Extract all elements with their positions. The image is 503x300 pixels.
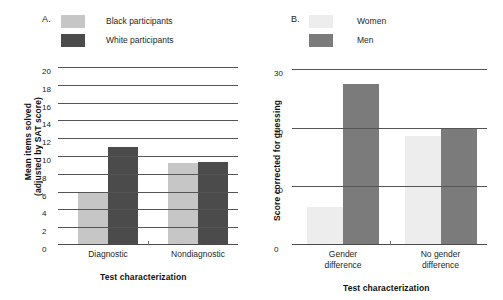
chart-panel-a: A. Black participants White participants…: [0, 0, 255, 300]
y-tick-label: 0: [274, 246, 278, 254]
bar: [168, 163, 198, 245]
bar: [343, 84, 379, 245]
y-tick-label: 20: [42, 68, 51, 76]
x-category-label: Genderdifference: [324, 249, 361, 271]
gridline: [58, 138, 238, 139]
legend-item: White participants: [61, 32, 174, 48]
y-tick-label: 12: [42, 139, 51, 147]
y-tick-label: 2: [42, 228, 46, 236]
y-tick-label: 14: [42, 121, 51, 129]
panel-b-legend: Women Men: [309, 13, 386, 51]
y-tick-label: 8: [42, 175, 46, 183]
x-category-label: No genderdifference: [421, 249, 461, 271]
legend-item: Men: [309, 32, 386, 48]
gridline: [58, 67, 238, 68]
panel-a-xlabel: Test characterization: [100, 272, 187, 282]
bar: [108, 147, 138, 245]
y-tick-label: 10: [274, 187, 283, 195]
legend-label-white-participants: White participants: [106, 35, 174, 45]
y-tick-label: 0: [42, 246, 46, 254]
legend-swatch-white-participants: [61, 34, 85, 47]
panel-a-ylabel-line1: Mean items solved: [23, 103, 33, 180]
gridline: [58, 227, 238, 228]
gridline: [58, 85, 238, 86]
legend-label-black-participants: Black participants: [106, 16, 173, 26]
bar: [405, 136, 441, 245]
panel-b-plot-area: 0102030: [292, 69, 487, 245]
y-tick-label: 18: [42, 86, 51, 94]
legend-label-men: Men: [357, 35, 374, 45]
group-separator-tick: [390, 241, 391, 245]
legend-label-women: Women: [357, 16, 386, 26]
gridline: [58, 209, 238, 210]
x-category-label: Diagnostic: [88, 249, 128, 260]
gridline: [292, 69, 487, 70]
gridline: [58, 103, 238, 104]
panel-b-bars: [292, 69, 487, 245]
panel-b-letter: B.: [291, 14, 300, 24]
y-tick-label: 20: [274, 129, 283, 137]
gridline: [292, 186, 487, 187]
legend-item: Women: [309, 13, 386, 29]
gridline: [58, 174, 238, 175]
y-tick-label: 10: [42, 157, 51, 165]
panel-b-xlabel: Test characterization: [343, 283, 430, 293]
panel-a-plot-area: 02468101214161820: [58, 67, 238, 245]
x-category-label: Nondiagnostic: [171, 249, 225, 260]
gridline: [58, 192, 238, 193]
y-tick-label: 6: [42, 193, 46, 201]
chart-panel-b: B. Women Men Score corrected for guessin…: [255, 0, 503, 300]
panel-b-ylabel: Score corrected for guessing: [272, 100, 282, 221]
y-tick-label: 30: [274, 70, 283, 78]
legend-swatch-men: [309, 34, 333, 47]
y-tick-label: 4: [42, 210, 46, 218]
legend-swatch-black-participants: [61, 15, 85, 28]
gridline: [292, 128, 487, 129]
gridline: [58, 120, 238, 121]
legend-item: Black participants: [61, 13, 174, 29]
panel-a-legend: Black participants White participants: [61, 13, 174, 51]
group-separator-tick: [148, 241, 149, 245]
y-tick-label: 16: [42, 104, 51, 112]
gridline: [58, 156, 238, 157]
panel-a-letter: A.: [42, 14, 51, 24]
bar: [307, 207, 343, 245]
legend-swatch-women: [309, 15, 333, 28]
bar: [78, 193, 108, 245]
